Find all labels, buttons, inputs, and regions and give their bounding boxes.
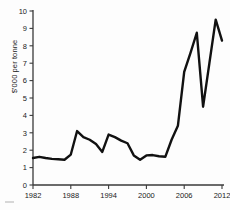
y-tick-label: 6 [23, 76, 27, 85]
x-tick-label: 2006 [176, 191, 193, 200]
line-chart-plot: 012345678910 198219881994200020062012 [0, 0, 230, 210]
y-tick-label: 8 [23, 42, 27, 51]
y-tick-label: 2 [23, 146, 27, 155]
price-series-line [33, 20, 222, 160]
y-tick-label: 1 [23, 163, 27, 172]
x-axis-ticks: 198219881994200020062012 [25, 185, 230, 200]
y-axis-ticks: 012345678910 [19, 7, 33, 190]
y-tick-label: 9 [23, 24, 27, 33]
x-tick-label: 1988 [62, 191, 79, 200]
y-tick-label: 4 [23, 111, 27, 120]
y-tick-label: 5 [23, 94, 27, 103]
y-axis-title: $'000 per tonne [10, 12, 19, 122]
x-tick-label: 2012 [214, 191, 230, 200]
y-tick-label: 7 [23, 59, 27, 68]
chart-container: $'000 per tonne 012345678910 19821988199… [0, 0, 230, 210]
x-tick-label: 1982 [25, 191, 42, 200]
y-tick-label: 3 [23, 129, 27, 138]
x-tick-label: 2000 [138, 191, 155, 200]
y-tick-label: 10 [19, 7, 27, 16]
y-tick-label: 0 [23, 181, 27, 190]
x-tick-label: 1994 [100, 191, 117, 200]
scan-artifact-mark [5, 201, 14, 203]
